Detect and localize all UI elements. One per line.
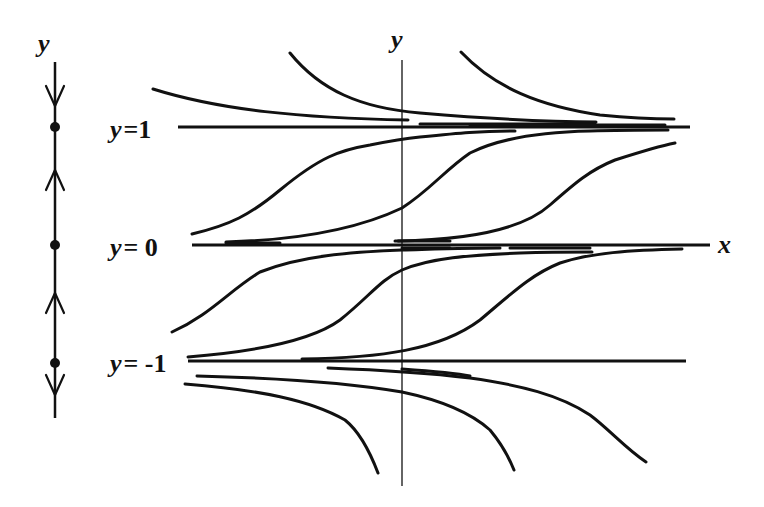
y-axis-label: y	[388, 25, 403, 54]
solution-curve	[185, 384, 378, 473]
equilibrium-dot-y1	[50, 122, 60, 132]
solution-curve	[290, 53, 596, 122]
phase-diagram: y y=1 y= 0 y= -1 y x	[0, 0, 764, 507]
solution-curve	[398, 143, 675, 241]
axes: y x	[388, 25, 731, 486]
x-axis-label: x	[717, 230, 731, 259]
phase-line-y-label: y	[35, 29, 50, 58]
equilibrium-dot-y0	[50, 240, 60, 250]
solution-curve	[226, 130, 668, 242]
solution-curve	[328, 368, 646, 462]
label-y-equals-1: y=1	[107, 115, 151, 144]
phase-line: y	[35, 29, 64, 418]
label-y-equals-minus-1: y= -1	[107, 349, 167, 378]
solution-curve	[188, 252, 592, 357]
solutions-above-1	[153, 52, 674, 125]
solutions-below-minus1	[185, 368, 646, 473]
solutions-minus1-to-0	[172, 248, 682, 359]
solution-curve	[172, 248, 500, 332]
label-y-equals-0: y= 0	[107, 233, 158, 262]
solutions-0-to-1	[192, 130, 675, 243]
solution-curve	[192, 131, 515, 234]
solution-curve	[461, 52, 674, 119]
equilibrium-labels: y=1 y= 0 y= -1	[107, 115, 167, 378]
equilibrium-dot-ym1	[50, 358, 60, 368]
